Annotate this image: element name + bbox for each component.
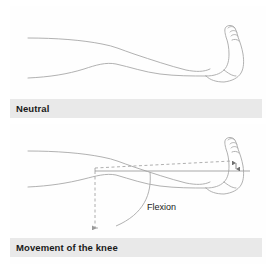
leg-upper-outline [28, 151, 210, 184]
panel-flexion: Movement of the knee [10, 124, 266, 264]
toe-line-3 [231, 35, 238, 37]
caption-neutral: Neutral [16, 99, 49, 118]
toe-line-1 [228, 27, 235, 29]
toe-line-2 [230, 31, 237, 33]
knee-movement-figure: Neutral [0, 0, 278, 276]
ankle-contour [224, 182, 236, 188]
panel-neutral: Neutral [10, 6, 266, 118]
toe-line-4 [232, 151, 239, 153]
leg-lower-outline [28, 63, 206, 78]
toe-line-1 [228, 139, 235, 141]
leg-upper-outline [28, 38, 210, 71]
foot-outline [206, 26, 244, 83]
ankle-contour [224, 70, 236, 76]
dashed-reference-line [95, 161, 232, 168]
toe-line-4 [232, 39, 239, 41]
caption-movement-of-the-knee: Movement of the knee [16, 238, 118, 257]
foot-outline [206, 138, 244, 195]
toe-line-3 [231, 147, 238, 149]
flexion-annotation-label: Flexion [147, 202, 176, 212]
toe-line-2 [230, 143, 237, 145]
